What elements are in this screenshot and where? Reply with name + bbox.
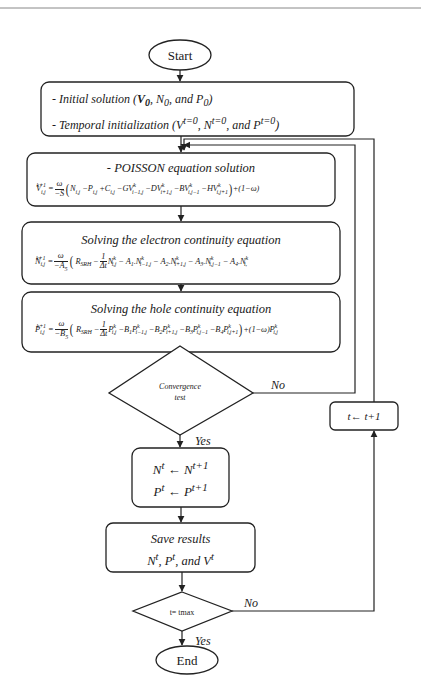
poisson-title: - POISSON equation solution bbox=[27, 162, 335, 175]
poisson-equation: Vi,jk+1 =ω−S(Ni,j −Pi,j +Ci,j −GVki−1,j … bbox=[36, 180, 259, 199]
tmax-label: t= tmax bbox=[170, 608, 195, 617]
convergence-label-line1: Convergence bbox=[159, 382, 201, 391]
convergence-yes-label: Yes bbox=[195, 434, 211, 448]
tmax-no-label: No bbox=[243, 596, 258, 610]
update-line2: Pt ← Pt+1 bbox=[132, 482, 229, 498]
save-line2: Nt, Pt, and Vt bbox=[106, 552, 255, 568]
init-line1: - Initial solution (V0, N0, and P0) bbox=[52, 93, 212, 108]
electron-equation: Ni,jk+1 =ω−A5( RSRH −1ΔtNki,j − A1.Nki−1… bbox=[35, 252, 247, 272]
electron-title: Solving the electron continuity equation bbox=[22, 234, 340, 247]
hole-title: Solving the hole continuity equation bbox=[22, 303, 340, 316]
start-label: Start bbox=[168, 48, 193, 63]
convergence-no-label: No bbox=[270, 378, 285, 392]
increment-label: t← t+1 bbox=[348, 410, 381, 422]
edge-tmax-no bbox=[232, 431, 374, 611]
save-line1: Save results bbox=[106, 533, 255, 546]
update-line1: Nt ← Nt+1 bbox=[132, 460, 229, 476]
init-line2: - Temporal initialization (Vt=0, Nt=0, a… bbox=[52, 116, 279, 131]
hole-equation: Pi,jk+1 =ω−B5( RSRH −1ΔtPki,j −B1Pki−1,j… bbox=[35, 320, 278, 340]
convergence-label-line2: test bbox=[174, 393, 186, 402]
end-label: End bbox=[177, 653, 198, 668]
tmax-yes-label: Yes bbox=[195, 634, 211, 648]
